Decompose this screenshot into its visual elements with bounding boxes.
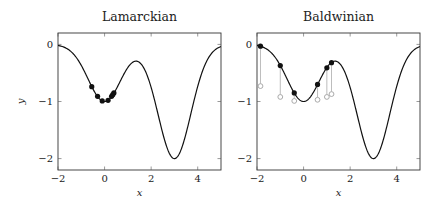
population-point	[258, 44, 263, 49]
learned-point	[315, 97, 320, 102]
y-tick-label: −2	[38, 153, 53, 164]
x-tick-label: 2	[148, 173, 154, 184]
learned-point	[292, 99, 297, 104]
y-tick-label: 0	[47, 39, 53, 50]
x-tick-label: −2	[51, 173, 66, 184]
learned-point	[258, 84, 263, 89]
x-tick-label: 4	[195, 173, 201, 184]
x-tick-label: −2	[250, 173, 265, 184]
learned-point	[278, 95, 283, 100]
chart-title: Baldwinian	[303, 9, 374, 24]
function-curve	[58, 45, 221, 158]
x-axis-label: x	[137, 187, 143, 198]
axes-frame	[58, 33, 221, 170]
population-point	[111, 90, 116, 95]
x-tick-label: 4	[394, 173, 400, 184]
function-curve	[257, 45, 420, 158]
x-axis-label: x	[336, 187, 342, 198]
axes-frame	[257, 33, 420, 170]
population-point	[105, 98, 110, 103]
y-tick-label: −1	[237, 96, 252, 107]
chart-figure: Lamarckian −20240−1−2xy Baldwinian −2024…	[0, 0, 440, 206]
learned-point	[329, 92, 334, 97]
baldwinian-panel: Baldwinian −20240−1−2x	[237, 9, 420, 198]
y-tick-label: −1	[38, 96, 53, 107]
y-tick-label: 0	[246, 39, 252, 50]
population-point	[89, 84, 94, 89]
population-point	[315, 82, 320, 87]
population-point	[278, 63, 283, 68]
chart-title: Lamarckian	[102, 9, 177, 24]
population-point	[329, 60, 334, 65]
population-point	[324, 65, 329, 70]
lamarckian-panel: Lamarckian −20240−1−2xy	[15, 9, 221, 198]
x-tick-label: 0	[300, 173, 306, 184]
population-point	[100, 98, 105, 103]
x-tick-label: 0	[101, 173, 107, 184]
x-tick-label: 2	[347, 173, 353, 184]
population-point	[292, 90, 297, 95]
y-tick-label: −2	[237, 153, 252, 164]
y-axis-label: y	[15, 98, 26, 105]
learned-point	[324, 95, 329, 100]
population-point	[95, 94, 100, 99]
